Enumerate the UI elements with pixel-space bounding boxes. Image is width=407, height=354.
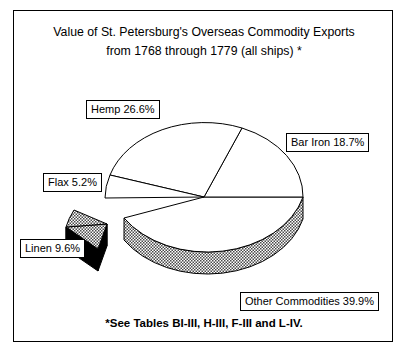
chart-footnote: *See Tables BI-III, H-III, F-III and L-I… <box>14 317 394 329</box>
slice-top-linen-wedge <box>66 210 107 227</box>
slice-label-bar-iron: Bar Iron 18.7% <box>286 133 369 152</box>
slice-label-linen: Linen 9.6% <box>20 239 85 258</box>
slice-label-other-commodities: Other Commodities 39.9% <box>240 292 379 311</box>
slice-label-flax: Flax 5.2% <box>43 173 102 192</box>
slice-label-hemp: Hemp 26.6% <box>86 100 160 119</box>
pie-chart: Hemp 26.6% Bar Iron 18.7% Flax 5.2% Line… <box>14 11 394 343</box>
chart-frame: Value of St. Petersburg's Overseas Commo… <box>13 10 393 342</box>
